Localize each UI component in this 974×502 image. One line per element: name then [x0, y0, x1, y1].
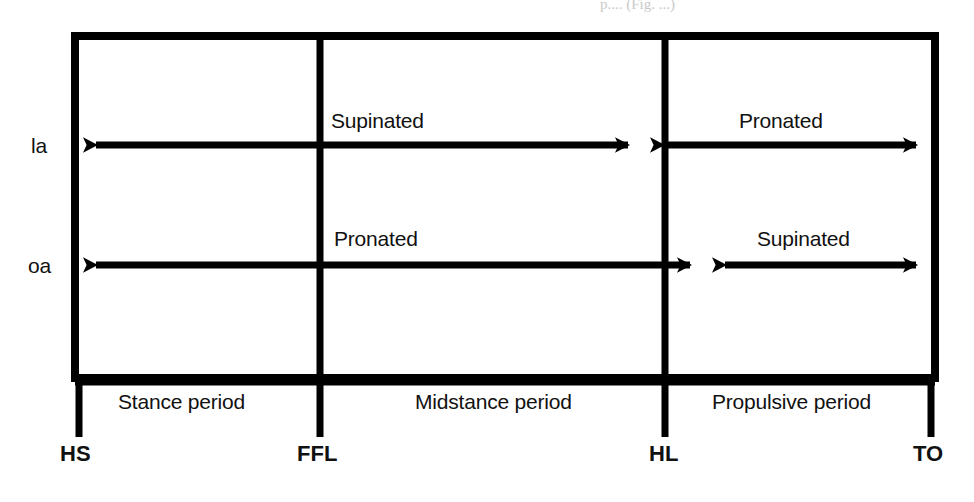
- tick-label-hl: HL: [649, 443, 678, 465]
- phase-label-la-pronated: Pronated: [739, 110, 823, 131]
- period-label-stance: Stance period: [118, 391, 245, 412]
- tick-label-ffl: FFL: [297, 443, 337, 465]
- phase-label-la-supinated: Supinated: [331, 110, 424, 131]
- period-label-midstance: Midstance period: [415, 391, 572, 412]
- phase-label-oa-supinated: Supinated: [757, 228, 850, 249]
- row-label-oa: oa: [28, 255, 51, 276]
- row-label-la: la: [31, 135, 47, 156]
- tick-label-hs: HS: [60, 443, 91, 465]
- phase-label-oa-pronated: Pronated: [334, 228, 418, 249]
- figure-canvas: p.... (Fig. ...): [0, 0, 974, 502]
- gait-cycle-diagram: [0, 0, 974, 502]
- diagram-outer-box: [75, 36, 935, 378]
- period-label-propulsive: Propulsive period: [712, 391, 871, 412]
- tick-label-to: TO: [913, 443, 943, 465]
